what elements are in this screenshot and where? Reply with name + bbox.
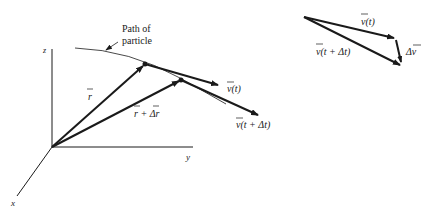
delta-v-vector [396, 40, 401, 62]
velocity-difference-triangle [304, 17, 401, 65]
svg-text:r + Δr: r + Δr [134, 108, 160, 119]
r-label: r [87, 89, 93, 102]
v-t-label: v(t) [227, 82, 242, 95]
z-axis-label: z [42, 46, 47, 55]
svg-text:Δv: Δv [405, 46, 417, 57]
v-t-dt-vector [181, 80, 258, 115]
path-pointer-arrow [106, 42, 118, 50]
right-v-t-label: v(t) [361, 14, 376, 28]
svg-text:v(t): v(t) [227, 83, 242, 95]
right-v-t-dt-vector [304, 17, 400, 65]
right-v-t-dt-label: v(t + Δt) [316, 44, 351, 58]
v-t-dt-label: v(t + Δt) [236, 118, 271, 131]
svg-text:r: r [88, 91, 92, 102]
path-label-line1: Path of [122, 23, 151, 34]
right-v-t-vector [304, 17, 394, 38]
delta-v-label: Δv [405, 45, 421, 57]
r-plus-dr-label: r + Δr [134, 106, 160, 119]
svg-text:v(t + Δt): v(t + Δt) [316, 46, 351, 58]
svg-text:v(t): v(t) [361, 16, 376, 28]
path-label-line2: particle [122, 35, 153, 46]
x-axis [17, 147, 52, 196]
x-axis-label: x [10, 198, 15, 208]
svg-text:v(t + Δt): v(t + Δt) [236, 119, 271, 131]
velocity-diagram: z y x Path of particle r r + Δr v(t) v(t… [0, 0, 428, 218]
y-axis-label: y [185, 152, 190, 162]
